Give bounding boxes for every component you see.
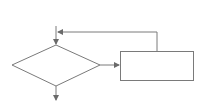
flowchart-canvas: [0, 0, 204, 103]
process-box: [121, 52, 194, 81]
feedback-loop-line: [58, 32, 157, 51]
flowchart-svg: [0, 0, 204, 103]
decision-diamond: [12, 45, 100, 86]
